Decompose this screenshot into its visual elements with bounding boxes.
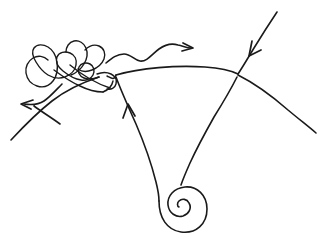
bottom-spiral: [159, 187, 207, 232]
right-leg: [181, 77, 237, 185]
incoming-arrow-line: [238, 12, 277, 74]
main-arc-left-tail: [11, 77, 99, 140]
sketch-canvas: [0, 0, 323, 246]
scribble-stroke-2: [26, 56, 58, 87]
main-arc-center-span: [116, 66, 238, 75]
left-leg: [116, 77, 159, 201]
wavy-arrow-line: [106, 44, 191, 63]
freehand-drawing: [0, 0, 323, 246]
left-branch-curve: [24, 84, 62, 124]
main-arc-right-tail: [238, 75, 316, 133]
tangled-scribble-knot: [26, 41, 116, 92]
scribble-stroke-9: [107, 75, 116, 79]
